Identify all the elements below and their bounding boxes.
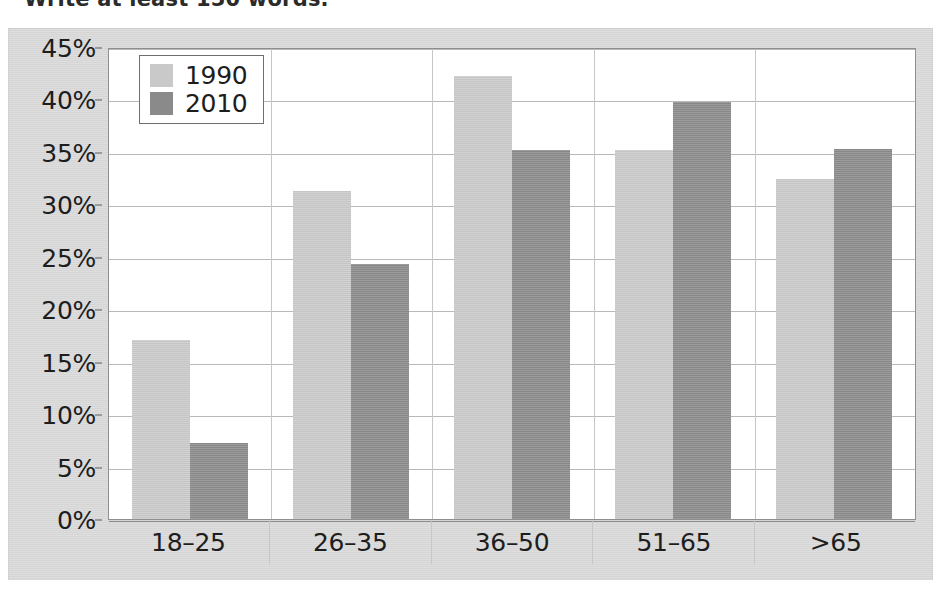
y-axis-tick-label: 0%	[57, 506, 96, 535]
y-axis-tick-label: 5%	[57, 453, 96, 482]
bar-group	[270, 49, 431, 519]
bar-2010-51–65	[673, 102, 731, 519]
y-axis-tick-mark	[95, 362, 102, 364]
y-axis-tick-mark	[95, 257, 102, 259]
x-axis-category-label: 36–50	[432, 520, 594, 564]
x-axis-category-label: 51–65	[593, 520, 755, 564]
bar-1990-18–25	[132, 340, 190, 519]
y-axis-tick-mark	[95, 47, 102, 49]
bar-2010->65	[834, 149, 892, 519]
y-axis-tick-label: 20%	[41, 296, 96, 325]
caption-text: Write at least 150 words.	[24, 0, 329, 11]
x-axis-category-label: 18–25	[108, 520, 270, 564]
bar-2010-18–25	[190, 443, 248, 519]
y-axis-tick-mark	[95, 99, 102, 101]
y-axis-tick-label: 40%	[41, 86, 96, 115]
bar-1990-36–50	[454, 76, 512, 519]
bar-group	[431, 49, 592, 519]
y-axis-tick-label: 35%	[41, 138, 96, 167]
y-axis-tick-label: 15%	[41, 348, 96, 377]
y-axis-tick-mark	[95, 204, 102, 206]
x-axis: 18–2526–3536–5051–65>65	[108, 520, 916, 564]
y-axis-tick-mark	[95, 519, 102, 521]
legend-item-1990: 1990	[150, 63, 247, 88]
y-axis-tick-label: 10%	[41, 401, 96, 430]
caption-strip: Write at least 150 words.	[0, 0, 950, 14]
y-axis-tick-mark	[95, 152, 102, 154]
bar-group	[754, 49, 915, 519]
legend-label-2010: 2010	[185, 91, 247, 116]
chart-figure-panel: 45%40%35%30%25%20%15%10%5%0% 1990 2010 1…	[8, 28, 933, 580]
bar-1990-51–65	[615, 150, 673, 519]
y-axis-tick-mark	[95, 309, 102, 311]
legend-swatch-2010	[150, 92, 173, 115]
y-axis: 45%40%35%30%25%20%15%10%5%0%	[26, 48, 102, 520]
bar-2010-26–35	[351, 264, 409, 519]
y-axis-tick-mark	[95, 414, 102, 416]
legend-swatch-1990	[150, 64, 173, 87]
bar-1990-26–35	[293, 191, 351, 519]
x-axis-category-label: 26–35	[270, 520, 432, 564]
legend-label-1990: 1990	[185, 63, 247, 88]
bar-2010-36–50	[512, 150, 570, 519]
bar-1990->65	[776, 179, 834, 519]
y-axis-tick-label: 30%	[41, 191, 96, 220]
bar-group	[593, 49, 754, 519]
y-axis-tick-label: 45%	[41, 34, 96, 63]
chart-legend: 1990 2010	[139, 55, 264, 124]
y-axis-tick-label: 25%	[41, 243, 96, 272]
y-axis-tick-mark	[95, 467, 102, 469]
x-axis-category-label: >65	[755, 520, 916, 564]
plot-area: 1990 2010	[108, 48, 916, 520]
legend-item-2010: 2010	[150, 91, 247, 116]
